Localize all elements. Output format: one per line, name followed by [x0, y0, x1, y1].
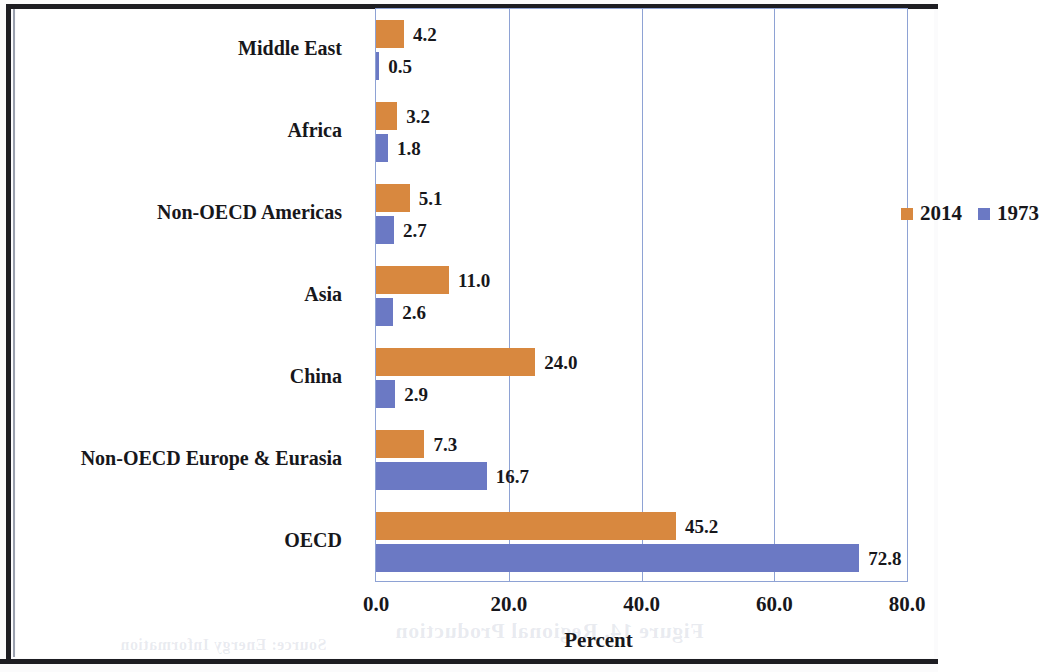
bar-value-label: 45.2 — [685, 517, 718, 536]
plot-area: 4.20.53.21.85.12.711.02.624.02.97.316.74… — [375, 8, 908, 582]
category-label-oecd: OECD — [284, 530, 342, 550]
bar-value-label: 16.7 — [496, 467, 529, 486]
x-tick-20.0: 20.0 — [490, 592, 527, 617]
bar-value-label: 72.8 — [868, 549, 901, 568]
bar-2014-china[interactable] — [376, 348, 535, 376]
bar-1973-non-oecd-europe-eurasia[interactable] — [376, 462, 487, 490]
bar-value-label: 2.6 — [402, 303, 426, 322]
bar-value-label: 11.0 — [458, 271, 490, 290]
legend-item-1973[interactable]: 1973 — [978, 201, 1039, 226]
bar-1973-middle-east[interactable] — [376, 52, 379, 80]
bar-value-label: 1.8 — [397, 139, 421, 158]
legend-swatch-1973-icon — [978, 208, 990, 220]
category-label-asia: Asia — [304, 284, 342, 304]
gridline-60.0 — [774, 9, 775, 581]
bar-2014-non-oecd-americas[interactable] — [376, 184, 410, 212]
category-label-non-oecd-europe-eurasia: Non-OECD Europe & Eurasia — [81, 448, 342, 468]
chart-legend[interactable]: 2014 1973 — [901, 201, 1039, 226]
category-label-africa: Africa — [288, 120, 342, 140]
category-label-china: China — [290, 366, 342, 386]
legend-label-1973: 1973 — [997, 201, 1039, 226]
bar-2014-non-oecd-europe-eurasia[interactable] — [376, 430, 424, 458]
legend-item-2014[interactable]: 2014 — [901, 201, 962, 226]
bar-2014-asia[interactable] — [376, 266, 449, 294]
legend-label-2014: 2014 — [920, 201, 962, 226]
bar-2014-africa[interactable] — [376, 102, 397, 130]
bar-1973-non-oecd-americas[interactable] — [376, 216, 394, 244]
category-label-non-oecd-americas: Non-OECD Americas — [157, 202, 342, 222]
bar-1973-asia[interactable] — [376, 298, 393, 326]
x-tick-60.0: 60.0 — [756, 592, 793, 617]
gridline-40.0 — [642, 9, 643, 581]
bar-1973-china[interactable] — [376, 380, 395, 408]
x-tick-80.0: 80.0 — [889, 592, 926, 617]
x-tick-0.0: 0.0 — [363, 592, 389, 617]
gridline-20.0 — [509, 9, 510, 581]
bar-1973-oecd[interactable] — [376, 544, 859, 572]
category-label-middle-east: Middle East — [238, 38, 342, 58]
legend-swatch-2014-icon — [901, 208, 913, 220]
bar-value-label: 2.7 — [403, 221, 427, 240]
bar-value-label: 0.5 — [388, 57, 412, 76]
bar-value-label: 7.3 — [433, 435, 457, 454]
bar-2014-middle-east[interactable] — [376, 20, 404, 48]
x-tick-40.0: 40.0 — [623, 592, 660, 617]
bar-2014-oecd[interactable] — [376, 512, 676, 540]
bar-1973-africa[interactable] — [376, 134, 388, 162]
bar-value-label: 3.2 — [406, 107, 430, 126]
bar-value-label: 5.1 — [419, 189, 443, 208]
x-axis-title-wrap: Percent — [0, 628, 938, 653]
bar-value-label: 4.2 — [413, 25, 437, 44]
bar-value-label: 24.0 — [544, 353, 577, 372]
bar-value-label: 2.9 — [404, 385, 428, 404]
x-axis-title: Percent — [564, 628, 632, 653]
gridline-80.0 — [907, 9, 908, 581]
